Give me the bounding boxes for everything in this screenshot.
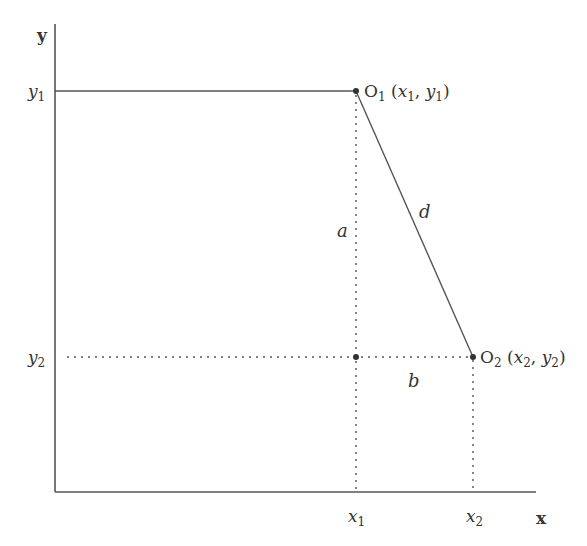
label-b: b (408, 370, 420, 391)
tick-y1: y1 (27, 81, 45, 104)
point-o1 (353, 88, 359, 94)
label-d: d (419, 201, 431, 222)
label-a: a (337, 220, 348, 241)
y-axis-label: y (36, 25, 48, 45)
label-o1: O1 (x1, y1) (364, 81, 450, 104)
tick-x2: x2 (466, 506, 483, 529)
segment-d (356, 91, 473, 357)
label-o2: O2 (x2, y2) (480, 347, 566, 370)
point-corner (353, 354, 359, 360)
tick-y2: y2 (27, 347, 45, 370)
distance-diagram: y x y1 y2 x1 x2 O1 (x1, y1) O2 (x2, y2) … (0, 0, 587, 546)
point-o2 (470, 354, 476, 360)
x-axis-label: x (536, 508, 547, 528)
tick-x1: x1 (348, 506, 365, 529)
